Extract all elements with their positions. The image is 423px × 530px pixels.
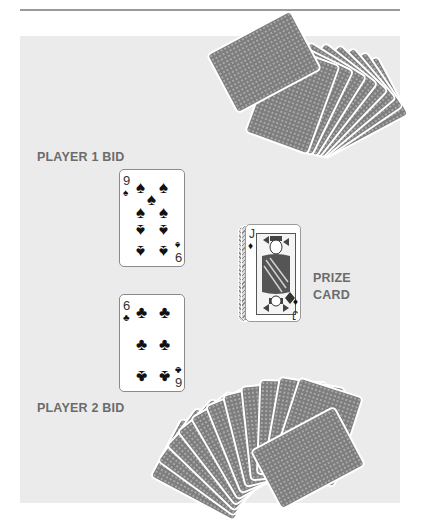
spade-icon: ♠ bbox=[136, 179, 145, 196]
spade-icon: ♠ bbox=[175, 240, 180, 250]
spade-icon: ♠ bbox=[147, 191, 156, 208]
card-rank-top: 9 bbox=[123, 174, 130, 187]
spade-icon: ♠ bbox=[159, 204, 168, 221]
player1-bid-card[interactable]: 9 ♠ ♠ ♠ ♠ ♠ ♠ ♠ ♠ ♠ ♠ ♠ 6 bbox=[119, 169, 185, 267]
club-icon: ♣ bbox=[159, 304, 170, 321]
jack-face-art bbox=[256, 233, 296, 315]
club-icon: ♣ bbox=[136, 304, 147, 321]
spade-icon: ♠ bbox=[136, 222, 145, 239]
spade-icon: ♠ bbox=[136, 243, 145, 260]
spade-icon: ♠ bbox=[136, 204, 145, 221]
prize-card-stack[interactable]: J ♦ ♦ J bbox=[242, 224, 302, 324]
game-board: PLAYER 1 BID 9 ♠ ♠ ♠ ♠ ♠ ♠ ♠ ♠ ♠ ♠ ♠ 6 J… bbox=[20, 36, 400, 503]
prize-label-line2: CARD bbox=[313, 288, 351, 303]
diamond-icon: ♦ bbox=[293, 297, 298, 307]
player1-bid-label: PLAYER 1 BID bbox=[37, 150, 124, 165]
prize-label-line1: PRIZE bbox=[313, 271, 351, 286]
prize-card[interactable]: J ♦ ♦ J bbox=[245, 224, 301, 322]
card-rank-bottom: J bbox=[292, 308, 298, 321]
club-icon: ♣ bbox=[123, 313, 130, 323]
prize-card-label: PRIZE CARD bbox=[313, 271, 351, 303]
spade-icon: ♠ bbox=[123, 188, 128, 198]
card-rank-bottom: 6 bbox=[175, 251, 182, 264]
diamond-icon: ♦ bbox=[248, 241, 253, 251]
top-divider bbox=[20, 9, 400, 11]
spade-icon: ♠ bbox=[159, 222, 168, 239]
club-icon: ♣ bbox=[136, 336, 147, 353]
club-icon: ♣ bbox=[159, 336, 170, 353]
player2-hand bbox=[20, 366, 400, 503]
spade-icon: ♠ bbox=[159, 243, 168, 260]
card-rank-top: 6 bbox=[123, 299, 130, 312]
spade-icon: ♠ bbox=[159, 179, 168, 196]
